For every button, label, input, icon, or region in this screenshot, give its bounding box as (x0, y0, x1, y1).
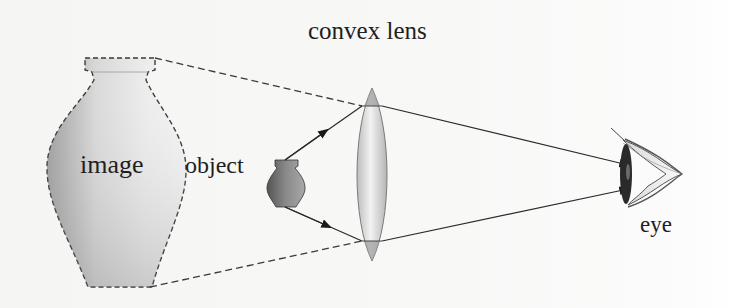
eye-icon (611, 128, 682, 207)
dashed-ray-top (155, 58, 362, 106)
diagram-canvas: image object convex lens eye (0, 0, 739, 308)
image-label: image (80, 150, 144, 180)
ray-lens-to-eye-bottom (382, 189, 628, 241)
dashed-ray-bottom (150, 241, 362, 287)
object-label: object (185, 152, 244, 179)
arrow-icon (285, 130, 327, 160)
ray-lens-to-eye-top (382, 106, 628, 165)
object-vase (267, 160, 305, 207)
convex-lens (357, 88, 387, 261)
eye-label: eye (640, 212, 672, 238)
arrow-icon (285, 207, 330, 227)
lens-label: convex lens (308, 17, 427, 45)
